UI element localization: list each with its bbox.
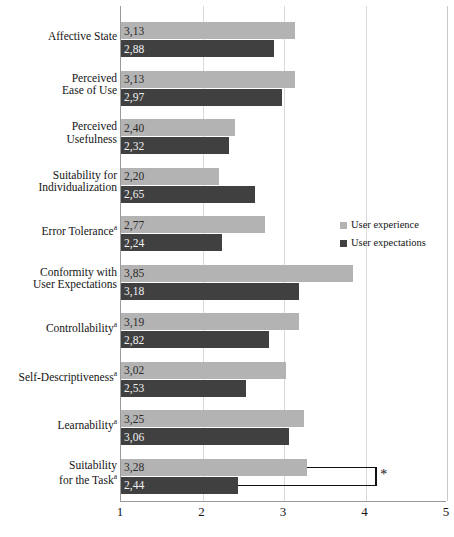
bar-value-label: 3,13: [124, 25, 144, 37]
bar-value-label: 2,82: [124, 334, 144, 346]
bar-user-expectations: 2,88: [121, 40, 274, 57]
bar-user-expectations: 2,65: [121, 186, 255, 203]
category-label: Self-Descriptivenessa: [0, 368, 117, 383]
bar-value-label: 2,24: [124, 237, 144, 249]
plot-area: Affective State3,132,88Perceived Ease of…: [120, 6, 446, 502]
footnote-marker: a: [114, 224, 117, 233]
bar-user-experience: 3,19: [121, 313, 299, 330]
footnote-marker: a: [114, 321, 117, 330]
chart-legend: User experienceUser expectations: [340, 216, 426, 252]
bar-value-label: 2,40: [124, 122, 144, 134]
category-label: Perceived Ease of Use: [0, 72, 117, 97]
bar-value-label: 3,13: [124, 73, 144, 85]
category-label: Suitability for Individualization: [0, 169, 117, 194]
experience-swatch: [340, 222, 347, 229]
category-row: Perceived Usefulness2,402,32: [121, 109, 446, 158]
bar-user-expectations: 2,53: [121, 380, 246, 397]
x-tick-1: 1: [100, 504, 140, 520]
bar-value-label: 3,19: [124, 316, 144, 328]
bar-value-label: 3,06: [124, 431, 144, 443]
x-tick-2: 2: [182, 504, 222, 520]
category-row: Perceived Ease of Use3,132,97: [121, 61, 446, 110]
x-tick-5: 5: [426, 504, 454, 520]
category-row: Learnabilitya3,253,06: [121, 400, 446, 449]
footnote-marker: a: [114, 472, 117, 481]
category-row: Self-Descriptivenessa3,022,53: [121, 352, 446, 401]
legend-label: User expectations: [351, 234, 426, 252]
bar-value-label: 3,02: [124, 364, 144, 376]
bar-user-experience: 3,02: [121, 362, 286, 379]
bar-user-expectations: 2,32: [121, 137, 229, 154]
bar-value-label: 2,77: [124, 219, 144, 231]
bar-value-label: 2,65: [124, 188, 144, 200]
bar-value-label: 2,20: [124, 170, 144, 182]
category-label: Error Tolerancea: [0, 223, 117, 238]
bar-value-label: 2,97: [124, 91, 144, 103]
category-row: Suitability for the Taska3,282,44: [121, 449, 446, 498]
bar-user-expectations: 3,18: [121, 283, 299, 300]
bar-value-label: 2,32: [124, 140, 144, 152]
bar-user-experience: 2,77: [121, 216, 265, 233]
category-label: Perceived Usefulness: [0, 121, 117, 146]
bar-user-experience: 3,28: [121, 459, 307, 476]
bar-user-experience: 2,40: [121, 119, 235, 136]
category-label: Suitability for the Taska: [0, 459, 117, 487]
footnote-marker: a: [114, 369, 117, 378]
grouped-bar-chart: Affective State3,132,88Perceived Ease of…: [0, 0, 454, 537]
bar-user-expectations: 2,24: [121, 234, 222, 251]
expectations-swatch: [340, 240, 347, 247]
bar-user-experience: 3,25: [121, 410, 304, 427]
category-label: Learnabilitya: [0, 417, 117, 432]
x-tick-4: 4: [345, 504, 385, 520]
gridline-5: [447, 6, 448, 501]
bar-user-expectations: 2,44: [121, 477, 238, 494]
bar-value-label: 3,28: [124, 461, 144, 473]
bar-user-experience: 2,20: [121, 168, 219, 185]
bar-value-label: 3,85: [124, 267, 144, 279]
bar-user-expectations: 3,06: [121, 428, 289, 445]
category-row: Affective State3,132,88: [121, 12, 446, 61]
bar-value-label: 2,44: [124, 479, 144, 491]
bar-user-experience: 3,13: [121, 71, 295, 88]
bar-value-label: 2,53: [124, 382, 144, 394]
bar-value-label: 3,18: [124, 285, 144, 297]
bar-value-label: 2,88: [124, 43, 144, 55]
legend-item[interactable]: User expectations: [340, 234, 426, 252]
category-row: Conformity with User Expectations3,853,1…: [121, 255, 446, 304]
bar-user-experience: 3,13: [121, 22, 295, 39]
x-tick-3: 3: [263, 504, 303, 520]
bar-value-label: 3,25: [124, 413, 144, 425]
legend-label: User experience: [351, 216, 419, 234]
footnote-marker: a: [114, 418, 117, 427]
legend-item[interactable]: User experience: [340, 216, 426, 234]
category-label: Controllabilitya: [0, 320, 117, 335]
category-row: Controllabilitya3,192,82: [121, 303, 446, 352]
category-label: Affective State: [0, 30, 117, 43]
bar-user-expectations: 2,82: [121, 331, 269, 348]
bar-user-expectations: 2,97: [121, 89, 282, 106]
category-row: Suitability for Individualization2,202,6…: [121, 158, 446, 207]
bar-user-experience: 3,85: [121, 265, 353, 282]
category-label: Conformity with User Expectations: [0, 266, 117, 291]
